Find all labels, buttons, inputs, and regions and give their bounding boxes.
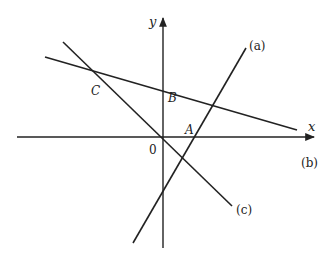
line-c-label: (c): [236, 203, 252, 217]
line-a-label: (a): [249, 39, 266, 53]
line-c: [63, 42, 232, 206]
point-a-label: A: [184, 123, 194, 137]
point-b-label: B: [167, 91, 177, 105]
point-c-label: C: [91, 84, 100, 98]
coordinate-diagram: y x 0 (a) (b) (c) A B C: [0, 0, 328, 264]
origin-label: 0: [149, 143, 157, 157]
line-b-label: (b): [301, 156, 318, 170]
x-axis-label: x: [308, 119, 316, 134]
y-axis-label: y: [148, 14, 157, 29]
